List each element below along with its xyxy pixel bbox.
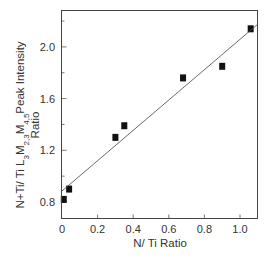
y-axis-label: N+Ti/ Ti L3M2,3M4,5Peak Intensity Ratio bbox=[14, 41, 41, 208]
y-tick-label: 1.2 bbox=[40, 144, 55, 156]
y-axis-label-line2: Ratio bbox=[29, 112, 41, 139]
data-point bbox=[219, 63, 225, 70]
regression-line bbox=[62, 25, 257, 191]
x-tick-label: 0.8 bbox=[197, 223, 212, 235]
data-point bbox=[180, 74, 186, 81]
scatter-chart: 00.20.40.60.81.0 0.81.21.62.0 N/ Ti Rati… bbox=[0, 0, 271, 262]
y-tick-label: 0.8 bbox=[40, 196, 55, 208]
x-axis-label: N/ Ti Ratio bbox=[133, 237, 187, 249]
data-point bbox=[112, 134, 118, 141]
x-axis-ticks: 00.20.40.60.81.0 bbox=[59, 215, 248, 236]
x-tick-label: 0 bbox=[59, 223, 65, 235]
y-tick-label: 1.6 bbox=[40, 93, 55, 105]
x-tick-label: 0.2 bbox=[90, 223, 105, 235]
y-tick-label: 2.0 bbox=[40, 41, 55, 53]
data-point bbox=[121, 122, 127, 129]
x-tick-label: 0.4 bbox=[126, 223, 141, 235]
y-axis-ticks: 0.81.21.62.0 bbox=[40, 21, 67, 208]
x-tick-label: 0.6 bbox=[161, 223, 176, 235]
x-tick-label: 1.0 bbox=[232, 223, 247, 235]
plot-frame bbox=[62, 11, 258, 219]
